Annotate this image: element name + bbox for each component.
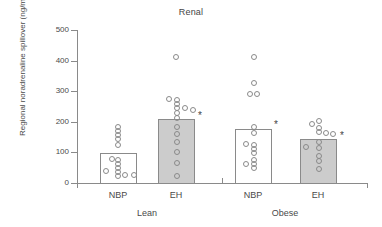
significance-star-obese-eh: * bbox=[340, 133, 344, 139]
data-point bbox=[243, 161, 249, 167]
data-point bbox=[174, 173, 180, 179]
y-tick-mark-500 bbox=[71, 30, 77, 31]
y-tick-label-200: 200 bbox=[35, 118, 69, 126]
x-tick-label-obese-eh: EH bbox=[288, 190, 348, 200]
y-tick-label-300: 300 bbox=[35, 87, 69, 95]
group-label-lean: Lean bbox=[102, 208, 192, 218]
data-point bbox=[131, 172, 137, 178]
data-point bbox=[316, 118, 322, 124]
y-tick-mark-100 bbox=[71, 152, 77, 153]
y-tick-label-500: 500 bbox=[35, 26, 69, 34]
data-point bbox=[309, 121, 315, 127]
data-point bbox=[174, 160, 180, 166]
group-label-obese: Obese bbox=[240, 208, 330, 218]
data-point bbox=[251, 165, 257, 171]
group-separator-tick bbox=[222, 178, 223, 183]
data-point bbox=[243, 141, 249, 147]
y-tick-400: 400 bbox=[30, 61, 77, 62]
data-point bbox=[174, 149, 180, 155]
y-tick-mark-300 bbox=[71, 91, 77, 92]
chart-title: Renal bbox=[0, 7, 382, 17]
y-tick-100: 100 bbox=[30, 152, 77, 153]
data-point bbox=[330, 131, 336, 137]
data-point bbox=[190, 107, 196, 113]
data-point bbox=[174, 124, 180, 130]
data-point bbox=[182, 105, 188, 111]
data-point bbox=[122, 172, 128, 178]
y-tick-mark-200 bbox=[71, 122, 77, 123]
significance-star-obese-nbp: * bbox=[274, 122, 278, 128]
chart-figure: Renal Regional noradrenaline spillover (… bbox=[0, 0, 382, 227]
data-point bbox=[316, 145, 322, 151]
data-point bbox=[251, 80, 257, 86]
data-point bbox=[323, 130, 329, 136]
data-point bbox=[316, 129, 322, 135]
x-tick-label-lean-eh: EH bbox=[146, 190, 206, 200]
x-tick-label-lean-nbp: NBP bbox=[88, 190, 148, 200]
significance-star-lean-eh: * bbox=[198, 113, 202, 119]
data-point bbox=[251, 150, 257, 156]
data-point bbox=[173, 54, 179, 60]
data-point bbox=[115, 142, 121, 148]
x-axis-end-tick bbox=[367, 183, 368, 188]
y-tick-label-0: 0 bbox=[35, 179, 69, 187]
x-axis-start-tick bbox=[77, 183, 78, 188]
y-axis-title: Regional noradrenaline spillover (ng/min… bbox=[18, 0, 28, 138]
data-point bbox=[251, 54, 257, 60]
data-point bbox=[303, 144, 309, 150]
data-point bbox=[103, 168, 109, 174]
x-tick-label-obese-nbp: NBP bbox=[223, 190, 283, 200]
data-point bbox=[316, 158, 322, 164]
y-tick-200: 200 bbox=[30, 122, 77, 123]
y-tick-500: 500 bbox=[30, 30, 77, 31]
data-point bbox=[174, 139, 180, 145]
data-point bbox=[316, 166, 322, 172]
data-point bbox=[251, 130, 257, 136]
data-point bbox=[166, 96, 172, 102]
y-tick-0: 0 bbox=[30, 183, 77, 184]
data-point bbox=[115, 173, 121, 179]
y-tick-label-100: 100 bbox=[35, 148, 69, 156]
y-tick-300: 300 bbox=[30, 91, 77, 92]
data-point bbox=[247, 91, 253, 97]
y-tick-mark-400 bbox=[71, 61, 77, 62]
y-tick-label-400: 400 bbox=[35, 57, 69, 65]
data-point bbox=[174, 131, 180, 137]
y-axis-line bbox=[77, 30, 78, 184]
data-point bbox=[254, 91, 260, 97]
data-point bbox=[174, 115, 180, 121]
